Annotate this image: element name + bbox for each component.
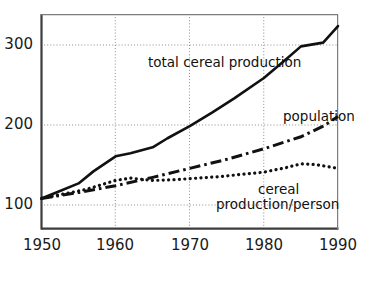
cereal-production-line-chart: 300 200 100 1950 1960 1970 1980 1990 tot…: [0, 0, 369, 281]
series-annotation-total-cereal-production: total cereal production: [148, 54, 301, 70]
x-tick-label-1960: 1960: [89, 236, 141, 254]
series-annotation-cereal-per-person-line1: cereal: [258, 181, 299, 197]
series-annotation-population: population: [283, 108, 355, 124]
x-tick-label-1950: 1950: [16, 236, 68, 254]
series-annotation-cereal-per-person-line2: production/person: [216, 196, 339, 212]
y-tick-label-200: 200: [0, 115, 33, 133]
y-tick-label-300: 300: [0, 35, 33, 53]
y-tick-label-100: 100: [0, 195, 33, 213]
x-tick-label-1970: 1970: [164, 236, 216, 254]
x-tick-label-1990: 1990: [312, 236, 364, 254]
x-tick-label-1980: 1980: [238, 236, 290, 254]
